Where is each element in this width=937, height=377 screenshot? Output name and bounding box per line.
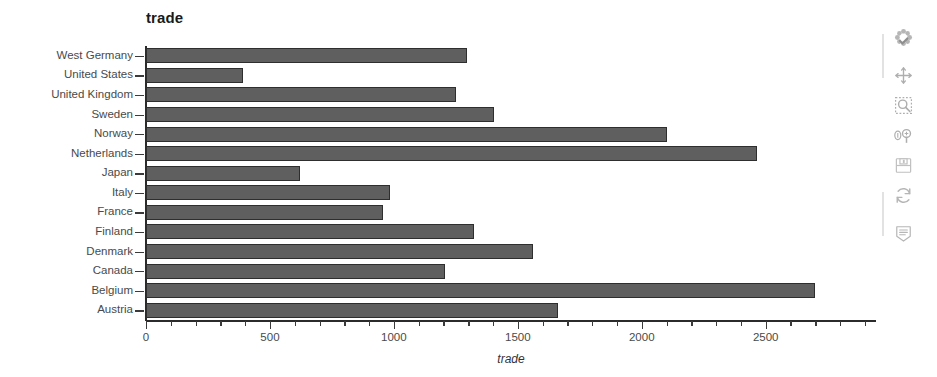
bar-rect[interactable] — [146, 264, 445, 279]
y-axis-tick — [135, 173, 144, 174]
x-axis-tick-label: 2000 — [629, 331, 655, 343]
plotly-logo-icon[interactable] — [888, 22, 918, 52]
y-axis-label-united-kingdom: United Kingdom — [51, 89, 133, 100]
save-disk-icon[interactable] — [888, 150, 918, 180]
bar-rect[interactable] — [146, 244, 533, 259]
y-axis-label-austria: Austria — [97, 304, 133, 315]
x-axis-minor-tick — [171, 321, 172, 326]
x-axis-minor-tick — [220, 321, 221, 326]
bar-rect[interactable] — [146, 146, 757, 161]
x-axis-tick-label: 1500 — [505, 331, 531, 343]
modebar-group-reset — [881, 180, 925, 210]
x-axis-tick-label: 0 — [143, 331, 149, 343]
modebar-group-data — [881, 218, 925, 248]
bar-japan[interactable] — [146, 166, 876, 181]
y-axis-label-italy: Italy — [112, 187, 133, 198]
y-axis-label-sweden: Sweden — [91, 109, 133, 120]
bar-rect[interactable] — [146, 224, 474, 239]
x-axis-minor-tick — [567, 321, 568, 326]
x-axis-minor-tick — [617, 321, 618, 326]
y-axis-label-finland: Finland — [95, 226, 133, 237]
modebar-group-zoom — [881, 60, 925, 150]
x-axis-minor-tick — [295, 321, 296, 326]
y-axis-tick — [135, 75, 144, 76]
chart-title: trade — [146, 9, 183, 26]
x-axis-major-tick — [270, 321, 271, 329]
y-axis-tick — [135, 291, 144, 292]
plot-area — [146, 46, 876, 320]
toggle-data-panel-icon[interactable] — [888, 218, 918, 248]
x-axis-minor-tick — [493, 321, 494, 326]
bar-rect[interactable] — [146, 127, 667, 142]
y-axis-category-labels: West GermanyUnited StatesUnited KingdomS… — [0, 46, 133, 320]
x-axis-minor-tick — [790, 321, 791, 326]
bar-rect[interactable] — [146, 205, 383, 220]
x-axis-minor-tick — [543, 321, 544, 326]
y-axis-tick — [135, 212, 144, 213]
bar-sweden[interactable] — [146, 107, 876, 122]
x-axis-minor-tick — [691, 321, 692, 326]
x-axis-minor-tick — [245, 321, 246, 326]
y-axis-label-japan: Japan — [102, 167, 133, 178]
bar-denmark[interactable] — [146, 244, 876, 259]
y-axis-tick — [135, 252, 144, 253]
bar-austria[interactable] — [146, 303, 876, 318]
x-axis-minor-tick — [716, 321, 717, 326]
y-axis-tick — [135, 56, 144, 57]
x-axis-minor-tick — [419, 321, 420, 326]
pan-move-icon[interactable] — [888, 60, 918, 90]
bar-norway[interactable] — [146, 127, 876, 142]
x-axis-minor-tick — [592, 321, 593, 326]
bar-rect[interactable] — [146, 87, 456, 102]
bar-west-germany[interactable] — [146, 48, 876, 63]
y-axis-tick — [135, 271, 144, 272]
x-axis-major-tick — [766, 321, 767, 329]
bar-rect[interactable] — [146, 107, 494, 122]
autoscale-refresh-icon[interactable] — [888, 180, 918, 210]
x-axis-minor-tick — [196, 321, 197, 326]
y-axis-label-norway: Norway — [94, 128, 133, 139]
x-axis-tick-label: 1000 — [381, 331, 407, 343]
bar-france[interactable] — [146, 205, 876, 220]
bar-united-states[interactable] — [146, 68, 876, 83]
bar-netherlands[interactable] — [146, 146, 876, 161]
modebar-separator-2 — [881, 210, 925, 218]
y-axis-label-canada: Canada — [93, 265, 133, 276]
x-axis-major-tick — [146, 321, 147, 329]
x-axis-major-tick — [394, 321, 395, 329]
x-axis-minor-tick — [369, 321, 370, 326]
y-axis-tick — [135, 115, 144, 116]
modebar-group-export — [881, 150, 925, 180]
bar-rect[interactable] — [146, 48, 467, 63]
bar-finland[interactable] — [146, 224, 876, 239]
bar-united-kingdom[interactable] — [146, 87, 876, 102]
zoom-in-out-icon[interactable] — [888, 120, 918, 150]
y-axis-tick — [135, 134, 144, 135]
zoom-select-box-icon[interactable] — [888, 90, 918, 120]
x-axis-title: trade — [146, 352, 876, 366]
bar-rect[interactable] — [146, 185, 390, 200]
bar-rect[interactable] — [146, 166, 300, 181]
bar-canada[interactable] — [146, 264, 876, 279]
modebar-group-logo — [881, 22, 925, 52]
x-axis-minor-tick — [443, 321, 444, 326]
bar-belgium[interactable] — [146, 283, 876, 298]
modebar[interactable] — [881, 22, 925, 248]
x-axis-minor-tick — [344, 321, 345, 326]
bar-rect[interactable] — [146, 283, 815, 298]
y-axis-tick — [135, 193, 144, 194]
x-axis-major-tick — [518, 321, 519, 329]
modebar-separator-1 — [881, 52, 925, 60]
y-axis-label-netherlands: Netherlands — [71, 148, 133, 159]
bar-italy[interactable] — [146, 185, 876, 200]
bar-rect[interactable] — [146, 303, 558, 318]
bar-rect[interactable] — [146, 68, 243, 83]
x-axis-minor-tick — [840, 321, 841, 326]
x-axis-minor-tick — [667, 321, 668, 326]
x-axis-tick-label: 500 — [260, 331, 279, 343]
x-axis-minor-tick — [741, 321, 742, 326]
x-axis-major-tick — [642, 321, 643, 329]
y-axis-tick — [135, 232, 144, 233]
y-axis-tick — [135, 310, 144, 311]
y-axis-label-west-germany: West Germany — [57, 50, 133, 61]
